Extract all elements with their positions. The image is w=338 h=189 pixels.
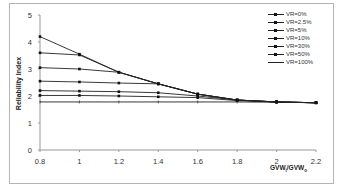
x-axis-title-main: GVW [270,164,286,171]
x-tick-label: 2.2 [311,157,321,166]
y-tick-label: 2 [28,92,32,101]
data-point-marker [39,52,42,55]
x-tick-label: 1.4 [153,157,163,166]
legend-line-marker-icon [268,18,284,26]
data-point-marker [118,95,121,98]
legend-line-marker-icon [268,34,284,42]
x-tick-label: 1.2 [114,157,124,166]
data-point-marker [78,81,81,84]
x-tick-label: 0.8 [35,157,45,166]
x-tick-label: 1.6 [192,157,202,166]
x-tick-label: 1.8 [232,157,242,166]
y-tick-label: 5 [28,11,32,20]
y-tick-label: 3 [28,65,32,74]
legend-line-marker-icon [268,50,284,58]
y-tick-label: 0 [28,146,32,155]
legend-item-vr-2-5: VR=2.5% [268,18,332,26]
x-tick-label: 1 [77,157,81,166]
data-point-marker [39,89,42,92]
data-point-marker [157,91,160,94]
legend-line-icon [268,58,284,66]
legend-label: VR=0% [286,11,307,17]
y-tick-label: 4 [28,38,32,47]
data-point-marker [118,82,121,85]
legend-label: VR=50% [286,51,310,57]
data-point-marker [39,94,42,97]
x-axis-title-mid: /GVW [287,164,304,171]
data-point-marker [78,68,81,71]
legend-line-marker-icon [268,10,284,18]
legend-line-marker-icon [268,42,284,50]
data-point-marker [39,66,42,69]
series-line [40,102,316,103]
legend-label: VR=10% [286,35,310,41]
x-axis-title-sub2: o [304,168,307,173]
legend-item-vr-5: VR=5% [268,26,332,34]
data-point-marker [118,90,121,93]
data-point-marker [196,96,199,99]
data-point-marker [78,90,81,93]
legend-line-marker-icon [268,26,284,34]
legend-item-vr-30: VR=30% [268,42,332,50]
data-point-marker [39,80,42,83]
data-point-marker [118,71,121,74]
legend-label: VR=5% [286,27,307,33]
data-point-marker [78,54,81,57]
data-point-marker [157,96,160,99]
chart-legend: VR=0% VR=2.5% VR=5% VR=10% VR=30% VR=50%… [268,10,332,66]
legend-item-vr-10: VR=10% [268,34,332,42]
data-point-marker [157,83,160,86]
legend-label: VR=30% [286,43,310,49]
data-point-marker [78,94,81,97]
legend-item-vr-0: VR=0% [268,10,332,18]
series-vr-5- [39,66,318,104]
legend-label: VR=2.5% [286,19,312,25]
legend-item-vr-50: VR=50% [268,50,332,58]
x-axis-title: GVWi/GVWo [270,164,307,173]
series-line [40,91,316,103]
series-vr-100- [40,100,316,104]
series-line [40,81,316,103]
y-axis-title: Reliability Index [15,44,22,124]
data-point-marker [39,35,42,38]
legend-item-vr-100: VR=100% [268,58,332,66]
y-tick-label: 1 [28,119,32,128]
legend-label: VR=100% [286,59,313,65]
